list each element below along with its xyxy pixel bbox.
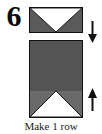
block-unit-bottom: [29, 40, 83, 118]
diagram-canvas: 6 Make 1 row: [0, 0, 102, 134]
flying-geese-unit-top: [29, 7, 83, 33]
arrow-up-icon: [86, 88, 99, 111]
diagram-caption: Make 1 row: [0, 120, 102, 133]
step-number: 6: [1, 0, 27, 33]
white-triangle-up-icon: [30, 91, 82, 117]
geese-strip: [30, 91, 82, 117]
white-triangle-down-icon: [30, 8, 82, 32]
plain-fabric-field: [30, 41, 82, 92]
arrow-down-icon: [86, 21, 99, 43]
